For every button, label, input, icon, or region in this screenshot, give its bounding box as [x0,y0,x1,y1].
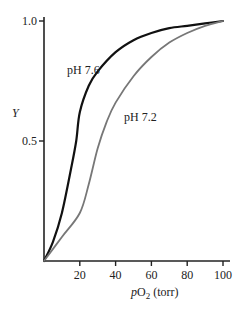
x-tick-label: 60 [145,268,157,282]
y-tick-label: 1.0 [22,14,37,28]
y-ticks: 0.51.0 [22,14,44,148]
x-tick-label: 80 [181,268,193,282]
x-label-italic: p [130,285,137,299]
x-tick-label: 100 [214,268,232,282]
curve-ph72 [44,21,223,261]
x-ticks: 20406080100 [74,261,232,282]
x-axis-label: pO2 (torr) [130,285,179,301]
x-tick-label: 40 [110,268,122,282]
oxygen-binding-chart: 0.51.0 20406080100 pH 7.6 pH 7.2 Y pO2 (… [0,0,242,311]
series-curves [44,21,223,261]
x-tick-label: 20 [74,268,86,282]
y-tick-label: 0.5 [22,134,37,148]
x-label-unit: (torr) [150,285,178,299]
y-axis-label: Y [12,106,20,120]
series-label-ph72: pH 7.2 [124,110,157,124]
x-label-main: O [137,285,146,299]
series-label-ph76: pH 7.6 [67,63,100,77]
